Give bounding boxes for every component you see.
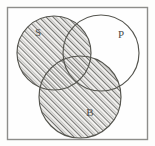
set-label-s: S — [35, 26, 41, 38]
venn-diagram-figure: S P B — [0, 0, 155, 146]
set-label-b: B — [86, 106, 93, 118]
venn-diagram-canvas: S P B — [0, 0, 155, 146]
set-label-p: P — [118, 28, 124, 40]
